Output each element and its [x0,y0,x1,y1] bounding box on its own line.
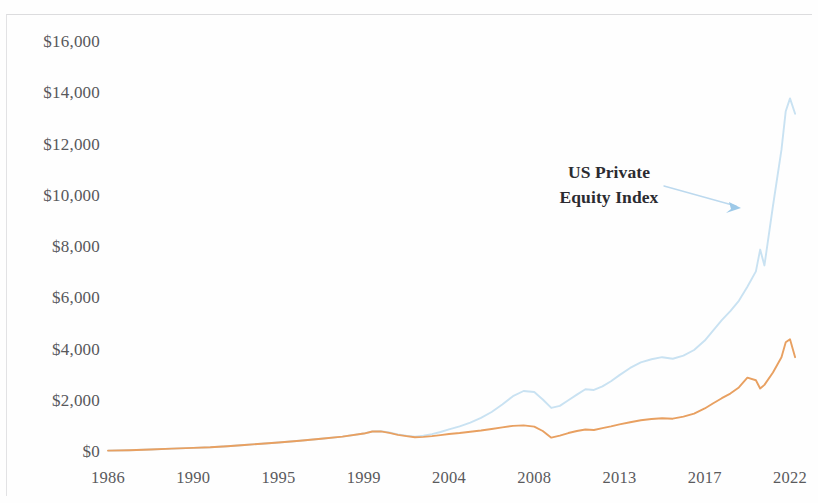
series-annotation-label: US Private Equity Index [524,160,694,210]
x-axis-tick-label: 2004 [432,468,466,488]
y-axis-tick-label: $2,000 [52,391,100,411]
annotation-line-1: US Private [524,160,694,185]
annotation-line-2: Equity Index [524,185,694,210]
y-axis-tick-label: $8,000 [52,237,100,257]
y-axis-tick-labels: $0$2,000$4,000$6,000$8,000$10,000$12,000… [0,0,100,503]
x-axis-tick-label: 2008 [517,468,551,488]
chart-figure: $0$2,000$4,000$6,000$8,000$10,000$12,000… [0,0,818,503]
x-axis-tick-label: 1999 [347,468,381,488]
y-axis-tick-label: $12,000 [43,135,100,155]
series-line [108,98,795,450]
y-axis-tick-label: $16,000 [43,32,100,52]
x-axis-tick-label: 1986 [91,468,125,488]
y-axis-tick-label: $14,000 [43,83,100,103]
x-axis-tick-label: 2022 [773,468,807,488]
x-axis-tick-label: 1990 [176,468,210,488]
y-axis-tick-label: $4,000 [52,340,100,360]
series-paths [108,98,795,450]
y-axis-tick-label: $6,000 [52,288,100,308]
series-line [108,339,795,450]
line-chart-plot [0,0,818,503]
x-axis-tick-label: 2013 [603,468,637,488]
x-axis-tick-label: 2017 [688,468,722,488]
x-axis-tick-label: 1995 [262,468,296,488]
y-axis-tick-label: $0 [83,442,100,462]
y-axis-tick-label: $10,000 [43,186,100,206]
